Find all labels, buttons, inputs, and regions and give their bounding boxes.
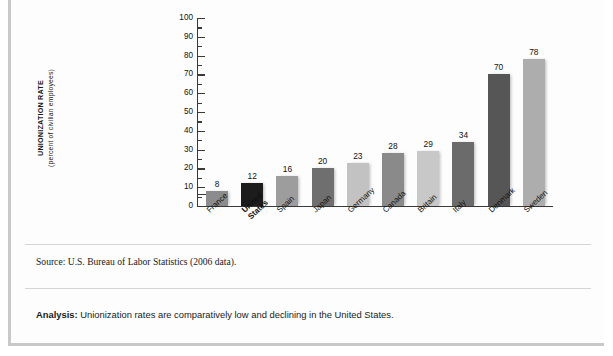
bar-group: 70Denmark xyxy=(488,18,510,206)
y-tick-label: 40 xyxy=(167,126,193,135)
bars-container: 8France12United States16Spain20Japan23Ge… xyxy=(198,18,553,206)
bar-value-label: 28 xyxy=(376,141,410,151)
y-tick-major xyxy=(197,206,205,207)
y-tick-label: 0 xyxy=(167,201,193,210)
y-axis-title-sub: (percent of civilian employees) xyxy=(46,23,56,213)
y-tick-label: 80 xyxy=(167,51,193,60)
y-tick-label: 30 xyxy=(167,145,193,154)
bar-group: 16Spain xyxy=(276,18,298,206)
bar-group: 12United States xyxy=(241,18,263,206)
bar-value-label: 16 xyxy=(270,164,304,174)
bar-group: 23Germany xyxy=(347,18,369,206)
y-tick-label: 10 xyxy=(167,182,193,191)
bar-value-label: 78 xyxy=(517,47,551,57)
analysis-text: Analysis: Unionization rates are compara… xyxy=(36,309,394,320)
bar-group: 34Italy xyxy=(452,18,474,206)
source-note: Source: U.S. Bureau of Labor Statistics … xyxy=(36,256,236,267)
y-tick-label: 100 xyxy=(167,13,193,22)
bar-group: 20Japan xyxy=(312,18,334,206)
analysis-label: Analysis: xyxy=(36,309,78,320)
bar-group: 78Sweden xyxy=(523,18,545,206)
figure-panel: UNIONIZATION RATE (percent of civilian e… xyxy=(8,0,604,346)
bar[interactable] xyxy=(523,59,545,206)
bar-group: 29Britain xyxy=(417,18,439,206)
y-axis-title: UNIONIZATION RATE (percent of civilian e… xyxy=(36,23,56,213)
bar[interactable] xyxy=(488,74,510,206)
y-tick-label: 70 xyxy=(167,69,193,78)
y-tick-label: 50 xyxy=(167,107,193,116)
bar-value-label: 20 xyxy=(306,156,340,166)
bar-value-label: 34 xyxy=(446,130,480,140)
analysis-body: Unionization rates are comparatively low… xyxy=(80,309,393,320)
y-tick-label: 90 xyxy=(167,32,193,41)
y-tick-label: 20 xyxy=(167,163,193,172)
chart-area: UNIONIZATION RATE (percent of civilian e… xyxy=(11,0,607,250)
bar-group: 28Canada xyxy=(382,18,404,206)
y-tick-label: 60 xyxy=(167,88,193,97)
divider-above-analysis xyxy=(25,288,591,289)
bar-value-label: 12 xyxy=(235,171,269,181)
bar-value-label: 8 xyxy=(200,179,234,189)
divider-above-source xyxy=(25,244,591,245)
bar[interactable] xyxy=(452,142,474,206)
y-axis-title-main: UNIONIZATION RATE xyxy=(36,80,45,156)
bar-value-label: 29 xyxy=(411,139,445,149)
bar-value-label: 70 xyxy=(482,62,516,72)
bar-group: 8France xyxy=(206,18,228,206)
bar-value-label: 23 xyxy=(341,151,375,161)
